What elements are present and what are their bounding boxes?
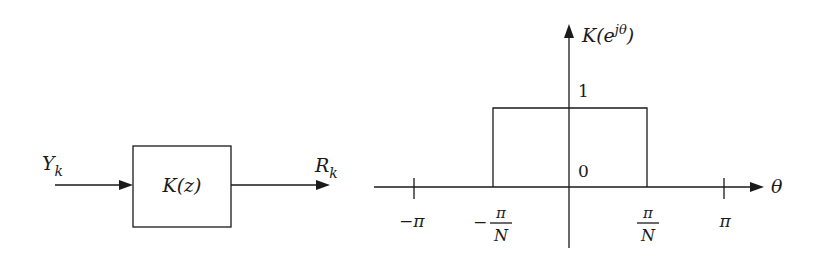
tick-label-pi: π: [718, 211, 731, 231]
frequency-response-plot: K(ejθ) θ 1 0 −π − π N π N π: [374, 22, 783, 248]
level-zero-label: 0: [578, 161, 589, 181]
y-axis-label: K(ejθ): [581, 22, 634, 46]
input-signal-label: Yk: [42, 152, 63, 179]
level-one-label: 1: [578, 81, 589, 101]
input-arrowhead-icon: [119, 180, 133, 190]
x-axis-label: θ: [771, 175, 783, 197]
block-diagram: Yk K(z) Rk: [42, 146, 338, 227]
diagram-canvas: Yk K(z) Rk K(ejθ) θ 1 0 −π − π N π: [0, 0, 816, 263]
tick-label-neg-pi: −π: [399, 211, 425, 231]
x-axis-arrowhead-icon: [750, 182, 764, 192]
y-axis-arrowhead-icon: [564, 24, 574, 38]
tick-label-neg-pi-over-n-num: π: [495, 204, 507, 222]
tick-label-pi-over-n-den: N: [640, 226, 656, 245]
tick-label-pi-over-n-num: π: [642, 204, 654, 222]
passband-rectangle: [493, 108, 647, 187]
block-label: K(z): [161, 174, 201, 196]
tick-label-neg-pi-over-n-den: N: [493, 226, 509, 245]
output-signal-label: Rk: [314, 154, 338, 181]
output-arrowhead-icon: [316, 180, 330, 190]
tick-label-neg-pi-over-n-sign: −: [473, 212, 487, 232]
